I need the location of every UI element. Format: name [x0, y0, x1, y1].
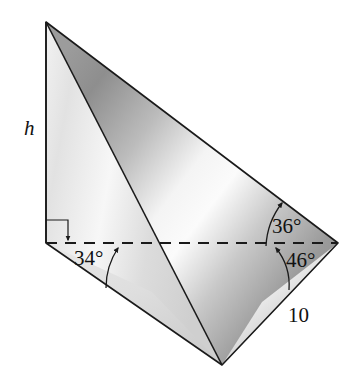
label-angle-36: 36°	[272, 216, 301, 237]
label-side-10: 10	[288, 305, 309, 326]
label-angle-34: 34°	[74, 248, 103, 269]
label-height-h: h	[24, 118, 35, 139]
figure-canvas	[0, 0, 359, 387]
label-angle-46: 46°	[286, 250, 315, 271]
geometry-figure: h 34° 36° 46° 10	[0, 0, 359, 387]
